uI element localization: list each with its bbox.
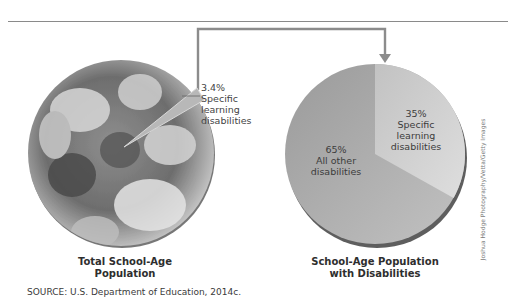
callout-text-2: learning — [201, 104, 252, 115]
right-pie-caption: School-Age Population with Disabilities — [290, 256, 460, 280]
left-pie-caption: Total School-Age Population — [40, 256, 210, 280]
left-caption-line-1: Total School-Age — [40, 256, 210, 268]
slice-label-other: 65% All other disabilities — [296, 144, 376, 177]
callout-text-1: Specific — [201, 93, 252, 104]
left-caption-line-2: Population — [40, 268, 210, 280]
callout-text-3: disabilities — [201, 115, 252, 126]
callout-percent: 3.4% — [201, 82, 252, 93]
source-note: SOURCE: U.S. Department of Education, 20… — [27, 287, 241, 297]
left-pie-callout: 3.4% Specific learning disabilities — [201, 82, 252, 126]
learning-text-2: learning — [376, 130, 456, 141]
other-percent: 65% — [296, 144, 376, 155]
right-caption-line-1: School-Age Population — [290, 256, 460, 268]
learning-text-3: disabilities — [376, 141, 456, 152]
left-pie-photo — [28, 60, 215, 248]
learning-percent: 35% — [376, 108, 456, 119]
slice-label-learning: 35% Specific learning disabilities — [376, 108, 456, 152]
learning-text-1: Specific — [376, 119, 456, 130]
photo-credit-text: Joshua Hodge Photography/Vetta/Getty Ima… — [479, 119, 486, 261]
other-text-2: disabilities — [296, 166, 376, 177]
right-caption-line-2: with Disabilities — [290, 268, 460, 280]
other-text-1: All other — [296, 155, 376, 166]
